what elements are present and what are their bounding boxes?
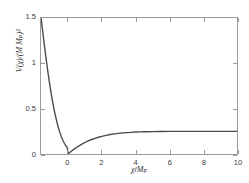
potential-curve bbox=[41, 18, 237, 154]
y-axis-label-exponent: 2 bbox=[15, 29, 21, 32]
x-tick-mark-top bbox=[238, 18, 239, 22]
y-axis-label-open: V( bbox=[15, 65, 24, 73]
y-tick-mark-right bbox=[233, 17, 237, 18]
plot-area bbox=[40, 17, 238, 155]
y-axis-label-close: ) bbox=[15, 32, 24, 35]
x-tick-mark-top bbox=[170, 18, 171, 22]
x-axis-label: χ/MP bbox=[40, 166, 238, 175]
y-tick-mark bbox=[41, 17, 45, 18]
y-tick-mark bbox=[41, 109, 45, 110]
x-tick-mark-top bbox=[67, 18, 68, 22]
y-axis-label-mid: )/(M M bbox=[15, 38, 24, 61]
chart-figure: 0246810 00.511.5 χ/MP V(χ)/(M MP)2 bbox=[0, 0, 249, 183]
y-tick-mark-right bbox=[233, 109, 237, 110]
x-tick-mark bbox=[204, 150, 205, 154]
y-tick-mark bbox=[41, 63, 45, 64]
x-tick-mark bbox=[170, 150, 171, 154]
x-tick-mark bbox=[67, 150, 68, 154]
y-tick-mark-right bbox=[233, 63, 237, 64]
x-tick-mark-top bbox=[204, 18, 205, 22]
x-tick-mark bbox=[136, 150, 137, 154]
curve-svg bbox=[41, 18, 237, 154]
y-tick-mark bbox=[41, 155, 45, 156]
x-tick-mark-top bbox=[136, 18, 137, 22]
y-tick-mark-right bbox=[233, 155, 237, 156]
x-tick-mark bbox=[101, 150, 102, 154]
x-tick-mark-top bbox=[101, 18, 102, 22]
x-axis-label-unit-sub: P bbox=[143, 168, 147, 174]
y-axis-label: V(χ)/(M MP)2 bbox=[16, 0, 25, 110]
y-axis-label-sub: P bbox=[18, 35, 24, 39]
y-tick-label: 0 bbox=[10, 151, 36, 159]
x-tick-mark bbox=[238, 150, 239, 154]
y-axis-label-variable: χ bbox=[15, 61, 24, 65]
